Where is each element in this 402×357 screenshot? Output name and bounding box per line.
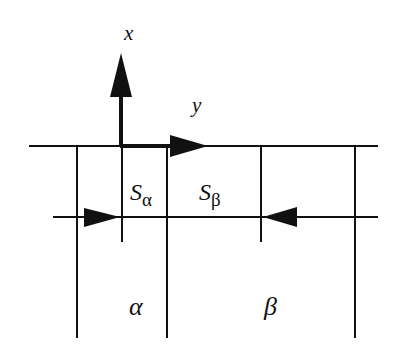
y-axis-arrow [120, 135, 208, 157]
y-axis-label: y [190, 93, 202, 117]
x-axis-arrow [110, 53, 132, 147]
phase-beta-label: β [263, 292, 277, 321]
x-axis-label: x [123, 21, 134, 45]
s-alpha-label: Sα [130, 179, 152, 210]
s-beta-label: Sβ [199, 179, 221, 210]
right-flux-arrow-icon [263, 207, 297, 227]
phase-alpha-label: α [129, 292, 144, 321]
left-flux-arrow-icon [84, 208, 120, 227]
arrow-right-icon [170, 135, 208, 157]
arrow-up-icon [110, 53, 132, 97]
grid-lines [29, 146, 378, 338]
diagram-canvas: x y Sα Sβ α β [0, 0, 402, 357]
